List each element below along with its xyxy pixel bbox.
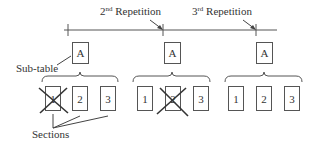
cross-icon-g1-section-1 (39, 88, 68, 113)
cross-marks (0, 0, 315, 148)
cross-icon-g2-section-2 (157, 88, 188, 116)
